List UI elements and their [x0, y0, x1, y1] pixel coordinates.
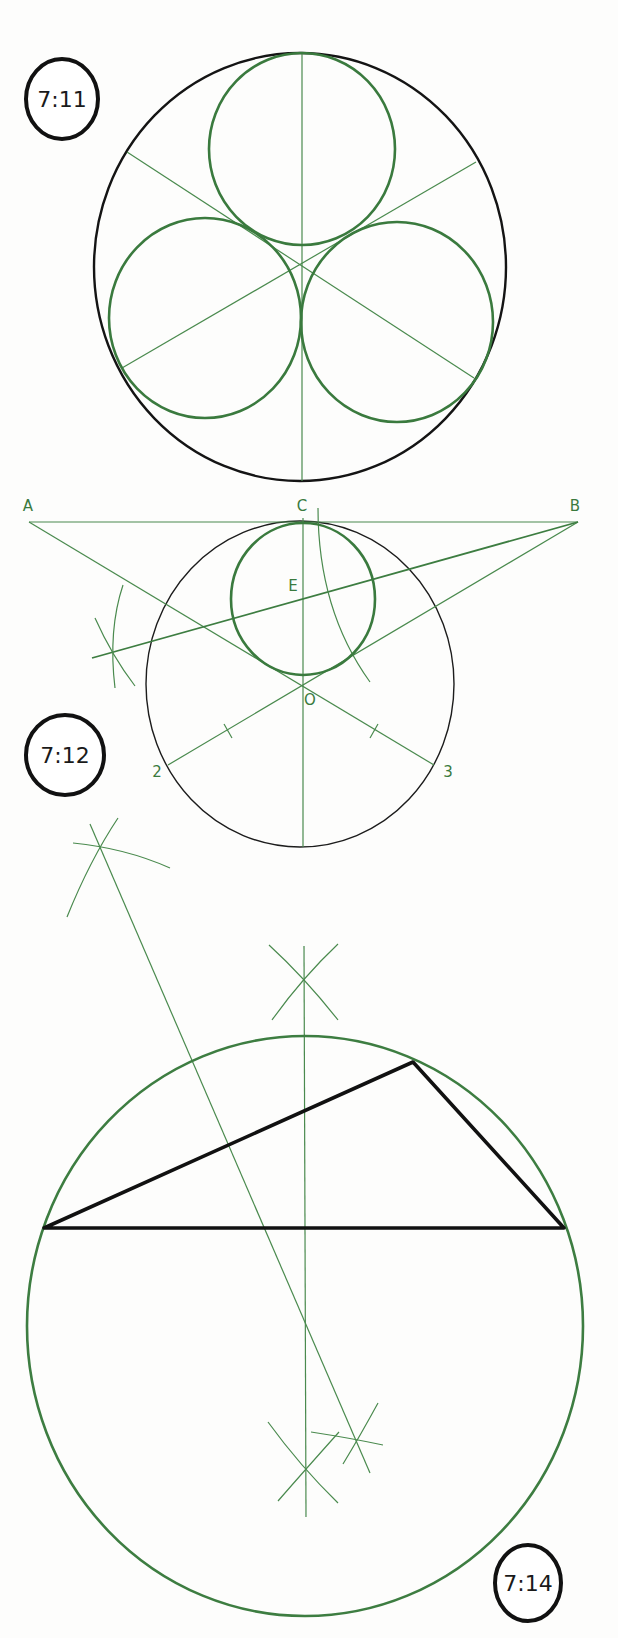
- figure-label-badge-7-14: 7:14: [495, 1545, 561, 1621]
- figure-7-12: A B C E O 2 3 7:12: [23, 497, 580, 847]
- geometry-figures-canvas: 7:11: [0, 0, 618, 1638]
- construction-arc-upper-left-1: [67, 818, 118, 917]
- construction-arc-bottom-2: [278, 1432, 339, 1501]
- point-label-E: E: [288, 577, 297, 595]
- bisector-B-E: [92, 522, 578, 658]
- construction-arc-lower-right-1: [311, 1432, 383, 1445]
- outer-circle-7-11: [94, 53, 506, 481]
- perpendicular-bisector-base: [304, 946, 306, 1517]
- point-label-A: A: [23, 497, 34, 515]
- spoke-left-down: [127, 152, 474, 378]
- figure-label-7-14: 7:14: [503, 1571, 552, 1596]
- figure-7-11: 7:11: [26, 53, 506, 481]
- perpendicular-bisector-side: [90, 824, 370, 1473]
- figure-label-7-11: 7:11: [37, 87, 86, 112]
- inner-circle-left: [109, 218, 301, 418]
- point-label-C: C: [297, 497, 307, 515]
- textbook-page: 7:11: [0, 0, 618, 1638]
- point-label-B: B: [570, 497, 580, 515]
- construction-arc-right: [318, 508, 370, 682]
- figure-label-badge-7-11: 7:11: [26, 59, 98, 139]
- figure-label-badge-7-12: 7:12: [26, 715, 104, 795]
- construction-arc-left-1: [113, 585, 123, 688]
- spokes-7-11: [122, 53, 476, 481]
- figure-label-7-12: 7:12: [40, 743, 89, 768]
- construction-arc-lower-right-2: [343, 1403, 378, 1464]
- point-label-O: O: [304, 691, 316, 709]
- construction-arc-upper-left-2: [73, 843, 170, 868]
- inner-circles-7-11: [109, 53, 493, 422]
- figure-7-14: 7:14: [27, 818, 583, 1621]
- point-label-2: 2: [152, 763, 162, 781]
- point-label-3: 3: [443, 763, 453, 781]
- inner-circle-right: [301, 222, 493, 422]
